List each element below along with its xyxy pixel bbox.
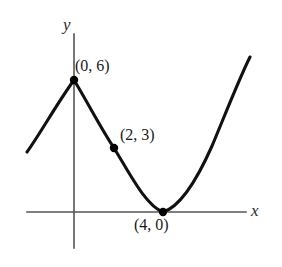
y-axis-label: y: [63, 16, 71, 33]
x-axis-label: x: [251, 202, 259, 219]
point-label-2-3: (2, 3): [120, 127, 155, 143]
figure-canvas: y x (0, 6) (2, 3) (4, 0): [0, 0, 282, 267]
point-label-4-0: (4, 0): [134, 217, 169, 233]
data-point-2-3: [110, 144, 118, 152]
point-label-0-6: (0, 6): [75, 58, 110, 74]
data-point-4-0: [159, 208, 167, 216]
data-point-0-6: [70, 76, 78, 84]
